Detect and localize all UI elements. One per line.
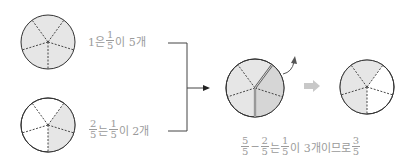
- fraction-one-fifth: 1 5: [109, 119, 117, 140]
- arrow-right-icon: [203, 85, 210, 91]
- label-text: 는: [98, 122, 108, 138]
- circle-two-fifths: [21, 98, 75, 152]
- label-whole: 1은 1 5 이 5개: [88, 30, 146, 51]
- fraction-five-fifths: 5 5: [241, 136, 249, 157]
- label-result: 5 5 − 2 5 는 1 5 이 3개이므로 3 5: [240, 136, 361, 157]
- label-text: 이 2개: [119, 122, 150, 138]
- circle-subtraction: [226, 59, 284, 117]
- circle-whole: [21, 15, 75, 69]
- fraction-two-fifths: 2 5: [261, 136, 269, 157]
- fraction-one-fifth: 1 5: [281, 136, 289, 157]
- fraction-two-fifths: 2 5: [89, 119, 97, 140]
- result-arrow-icon: [304, 80, 320, 92]
- circle-three-fifths: [340, 60, 394, 114]
- curved-arrow-icon: [283, 62, 294, 74]
- label-text: 1은: [88, 33, 105, 49]
- bracket-connector: [168, 43, 203, 131]
- label-text: 이 3개이므로: [290, 139, 351, 155]
- minus-sign: −: [250, 140, 259, 153]
- fraction-three-fifths: 3 5: [352, 136, 360, 157]
- label-text: 는: [270, 139, 280, 155]
- fraction-one-fifth: 1 5: [106, 30, 114, 51]
- label-two-fifths: 2 5 는 1 5 이 2개: [88, 119, 149, 140]
- label-text: 이 5개: [115, 33, 146, 49]
